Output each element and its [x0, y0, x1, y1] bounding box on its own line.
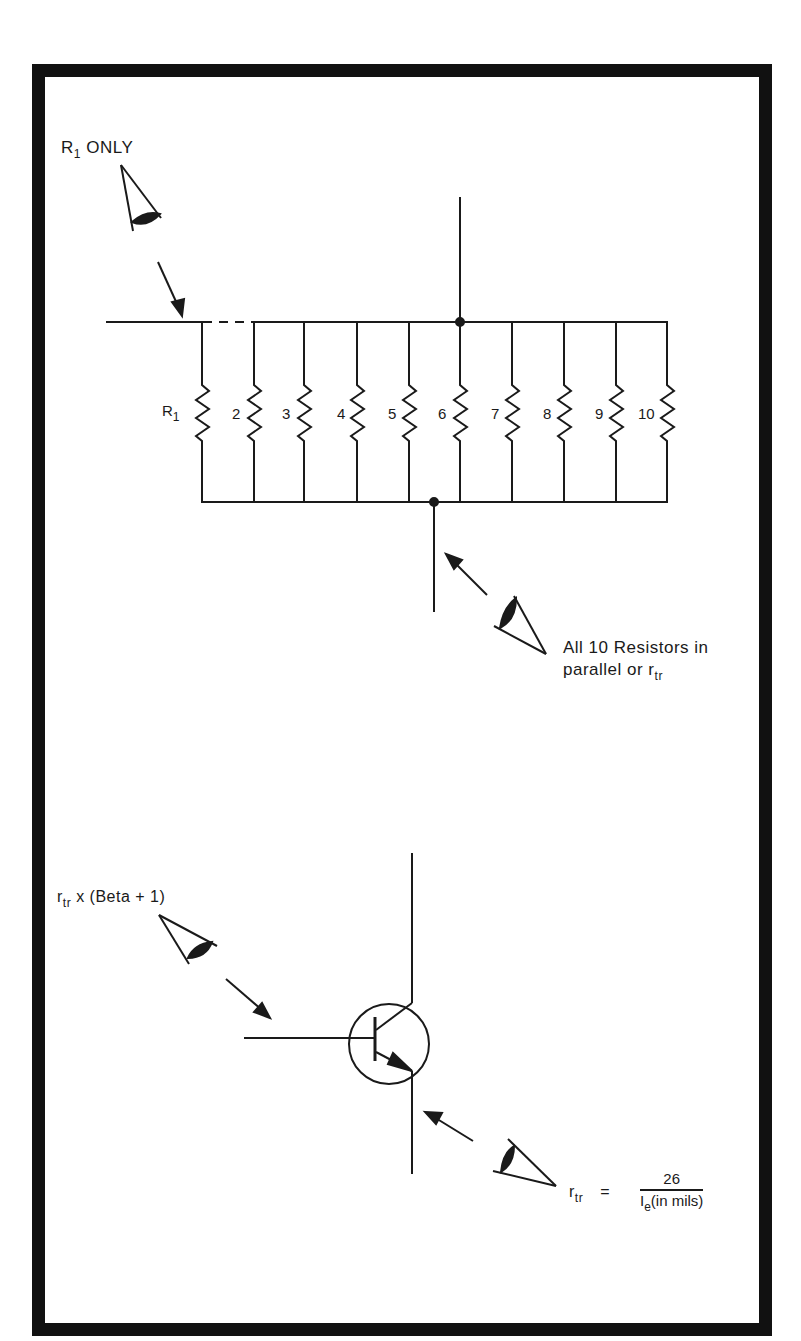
resistor-4	[351, 322, 364, 502]
label-r1-only: R1 ONLY	[61, 138, 133, 158]
resistor-8	[558, 322, 571, 502]
arrow-icon-emitter	[425, 1112, 473, 1141]
resistor-label-7: 7	[491, 405, 499, 422]
resistor-1	[196, 322, 209, 502]
label-emitter-formula-lhs: rtr =	[569, 1183, 610, 1201]
bottom-bus	[201, 498, 668, 612]
top-bus	[106, 197, 668, 326]
eye-icon-parallel	[494, 596, 546, 654]
label-parallel: All 10 Resistors in parallel or rtr	[563, 637, 709, 682]
arrow-icon-r1	[158, 262, 184, 316]
transistor-symbol	[244, 853, 429, 1174]
resistor-label-3: 3	[282, 405, 290, 422]
arrow-icon-base	[226, 979, 270, 1018]
resistor-5	[403, 322, 416, 502]
resistor-label-10: 10	[638, 405, 655, 422]
resistor-label-8: 8	[543, 405, 551, 422]
resistor-label-9: 9	[595, 405, 603, 422]
resistor-label-4: 4	[337, 405, 345, 422]
label-emitter-formula-fraction: 26 Ie(in mils)	[640, 1170, 703, 1209]
resistor-7	[506, 322, 519, 502]
resistor-2	[248, 322, 261, 502]
resistor-label-6: 6	[438, 405, 446, 422]
resistor-3	[298, 322, 311, 502]
resistor-label-5: 5	[388, 405, 396, 422]
resistor-label-1: R1	[162, 402, 180, 419]
label-base-impedance: rtr x (Beta + 1)	[57, 888, 165, 906]
resistor-label-2: 2	[232, 405, 240, 422]
resistor-9	[610, 322, 623, 502]
resistor-6	[454, 322, 467, 502]
eye-icon-emitter	[493, 1139, 556, 1186]
arrow-icon-parallel	[446, 554, 487, 595]
eye-icon-base	[159, 915, 217, 964]
resistor-10	[661, 322, 674, 502]
eye-icon-r1	[121, 165, 161, 231]
